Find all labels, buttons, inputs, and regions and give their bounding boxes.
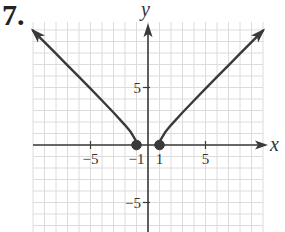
x-tick-label: 5 <box>202 151 210 167</box>
x-tick-label: −5 <box>83 151 99 167</box>
y-tick-label: 5 <box>134 80 142 96</box>
x-tick-label: −1 <box>129 151 145 167</box>
y-axis-label: y <box>139 0 150 21</box>
x-tick-label: 1 <box>156 151 164 167</box>
graph: −5−1155−5 x y <box>0 0 285 232</box>
closed-point <box>132 140 142 150</box>
y-tick-label: −5 <box>125 195 141 211</box>
x-axis-label: x <box>269 133 279 155</box>
axes <box>33 23 268 232</box>
closed-point <box>155 140 165 150</box>
